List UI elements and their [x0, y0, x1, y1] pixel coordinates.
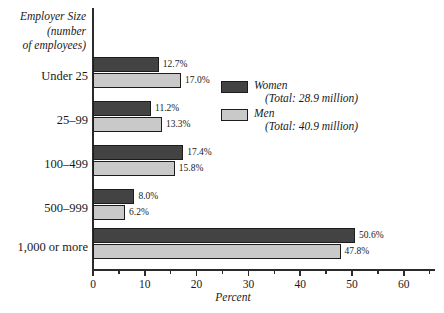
category-label-3: 500–999 — [0, 201, 88, 216]
bar-men-0 — [93, 73, 181, 88]
bar-women-0 — [93, 57, 159, 72]
bar-value-men-2: 15.8% — [179, 163, 204, 174]
bar-chart: Employer Size (number of employees) 12.7… — [0, 0, 444, 313]
x-axis-title: Percent — [192, 291, 274, 303]
x-tick-minor-5 — [118, 270, 120, 274]
x-tick-label-40: 40 — [280, 277, 320, 291]
y-axis-caption-line-1: Employer Size — [0, 9, 86, 24]
category-label-2: 100–499 — [0, 157, 88, 172]
x-tick-60 — [403, 270, 405, 276]
bar-women-2 — [93, 145, 183, 160]
bar-men-2 — [93, 161, 175, 176]
legend-entry-men: Men (Total: 40.9 million) — [221, 107, 421, 135]
category-label-1: 25–99 — [0, 113, 88, 128]
x-tick-minor-15 — [170, 270, 172, 274]
y-axis-caption-line-3: of employees) — [0, 38, 86, 53]
legend: Women (Total: 28.9 million) Men (Total: … — [221, 79, 421, 135]
bar-value-men-4: 47.8% — [345, 246, 370, 257]
x-tick-40 — [299, 270, 301, 276]
x-tick-minor-35 — [274, 270, 276, 274]
bar-women-1 — [93, 101, 151, 116]
legend-swatch-men-icon — [221, 109, 248, 121]
x-tick-minor-45 — [325, 270, 327, 274]
category-label-4: 1,000 or more — [0, 240, 88, 255]
bar-men-3 — [93, 205, 125, 220]
x-tick-label-20: 20 — [177, 277, 217, 291]
legend-total-women: (Total: 28.9 million) — [265, 92, 358, 105]
bar-women-4 — [93, 228, 355, 243]
bar-women-3 — [93, 189, 134, 204]
x-tick-label-0: 0 — [73, 277, 113, 291]
bar-men-1 — [93, 117, 162, 132]
bar-value-women-1: 11.2% — [155, 103, 179, 114]
x-tick-label-60: 60 — [384, 277, 424, 291]
bar-value-men-3: 6.2% — [129, 207, 149, 218]
x-tick-50 — [351, 270, 353, 276]
x-tick-minor-55 — [377, 270, 379, 274]
y-axis-caption-line-2: (number — [0, 24, 86, 39]
legend-total-men: (Total: 40.9 million) — [265, 120, 358, 133]
legend-label-men: Men — [254, 107, 274, 120]
x-tick-30 — [248, 270, 250, 276]
legend-swatch-women-icon — [221, 81, 248, 93]
bar-value-women-4: 50.6% — [359, 230, 384, 241]
bar-value-women-0: 12.7% — [163, 59, 188, 70]
bar-value-women-3: 8.0% — [138, 191, 158, 202]
y-axis-caption: Employer Size (number of employees) — [0, 9, 86, 53]
legend-entry-women: Women (Total: 28.9 million) — [221, 79, 421, 107]
x-tick-0 — [92, 270, 94, 276]
legend-label-women: Women — [254, 79, 287, 92]
x-tick-20 — [196, 270, 198, 276]
x-tick-minor-25 — [222, 270, 224, 274]
x-tick-10 — [144, 270, 146, 276]
bar-value-men-1: 13.3% — [166, 119, 191, 130]
bar-value-women-2: 17.4% — [187, 147, 212, 158]
bar-value-men-0: 17.0% — [185, 75, 210, 86]
category-label-0: Under 25 — [0, 69, 88, 84]
x-tick-label-30: 30 — [228, 277, 268, 291]
x-tick-label-10: 10 — [125, 277, 165, 291]
x-tick-label-50: 50 — [332, 277, 372, 291]
x-tick-minor-65 — [429, 270, 431, 274]
bar-men-4 — [93, 244, 341, 259]
